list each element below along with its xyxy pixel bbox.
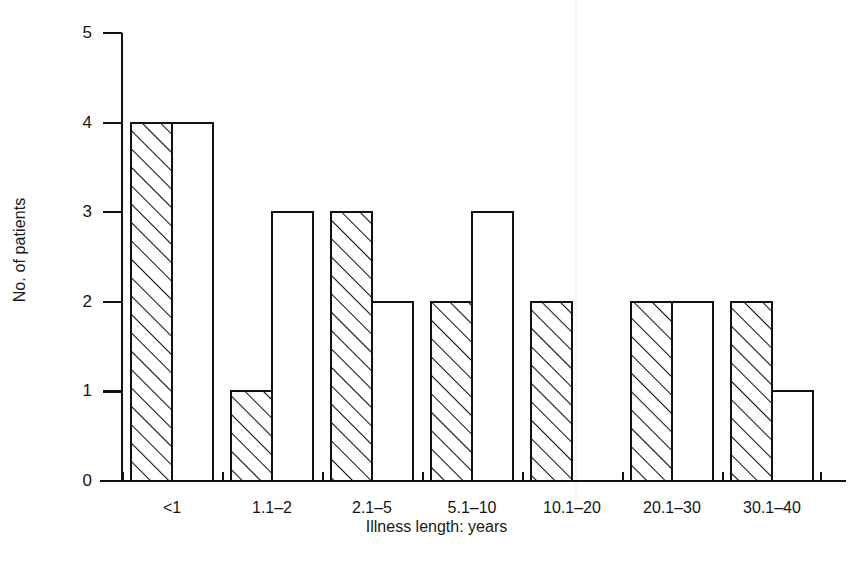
bar-open-5 (672, 302, 713, 481)
bar-hatched-5 (631, 302, 672, 481)
bar-hatched-0 (131, 123, 172, 481)
bar-open-6 (772, 391, 813, 481)
bar-open-3 (472, 212, 513, 481)
bar-hatched-4 (531, 302, 572, 481)
plot-area (0, 0, 859, 562)
bars-layer (131, 123, 813, 481)
bar-hatched-2 (331, 212, 372, 481)
bar-open-1 (272, 212, 313, 481)
x-axis-title-text: Illness length: years (366, 518, 507, 535)
bar-open-2 (372, 302, 413, 481)
bar-hatched-6 (731, 302, 772, 481)
x-axis-title: Illness length: years (0, 518, 859, 536)
chart-figure: No. of patients 012345 <11.1–22.1–55.1–1… (0, 0, 859, 562)
bar-open-0 (172, 123, 213, 481)
bar-hatched-1 (231, 391, 272, 481)
bar-hatched-3 (431, 302, 472, 481)
